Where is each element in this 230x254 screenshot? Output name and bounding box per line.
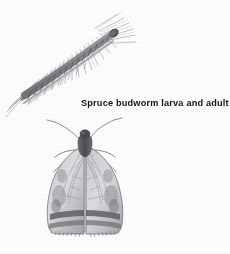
figure-plate: Spruce budworm larva and adult bbox=[0, 0, 230, 254]
caption-layer: Spruce budworm larva and adult bbox=[0, 0, 230, 254]
figure-caption: Spruce budworm larva and adult bbox=[81, 98, 227, 109]
